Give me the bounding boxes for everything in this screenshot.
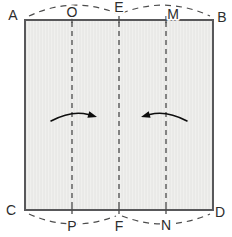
vertex-label-M: M bbox=[167, 6, 179, 22]
vertex-label-O: O bbox=[67, 4, 78, 20]
vertex-label-B: B bbox=[217, 9, 226, 25]
vertex-label-D: D bbox=[215, 204, 225, 220]
vertex-label-C: C bbox=[6, 202, 16, 218]
diagram-canvas: AOEMBCPFND bbox=[0, 0, 232, 237]
vertex-label-E: E bbox=[114, 0, 123, 15]
vertex-label-N: N bbox=[161, 217, 171, 233]
vertex-label-F: F bbox=[115, 218, 124, 234]
vertex-label-A: A bbox=[8, 7, 18, 23]
origami-fold-diagram: AOEMBCPFND bbox=[0, 0, 232, 237]
vertex-label-P: P bbox=[67, 218, 76, 234]
